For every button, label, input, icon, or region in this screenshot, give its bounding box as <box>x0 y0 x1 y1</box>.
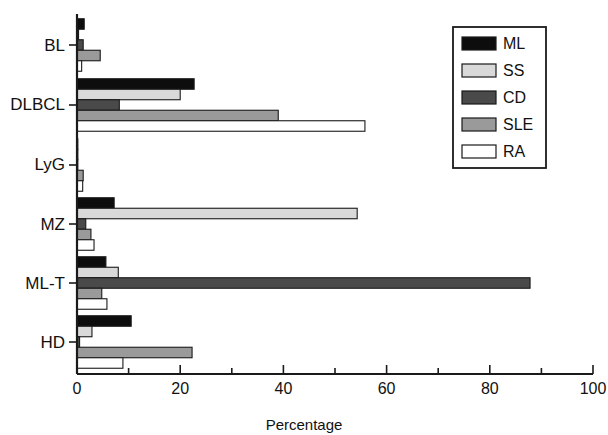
x-axis-tick-labels: 020406080100 <box>73 380 607 397</box>
bar <box>77 347 192 358</box>
bar <box>77 326 92 337</box>
bar <box>77 100 119 111</box>
bar <box>77 219 86 230</box>
bar <box>77 229 91 240</box>
legend-label: ML <box>503 35 525 52</box>
legend-swatch <box>462 91 496 104</box>
legend-label: RA <box>503 143 526 160</box>
bar <box>77 288 102 299</box>
x-axis-tick-label: 80 <box>481 380 499 397</box>
bar <box>77 110 278 121</box>
category-label: HD <box>40 333 65 352</box>
bar <box>77 121 365 132</box>
x-axis-tick-label: 40 <box>275 380 293 397</box>
bar <box>77 50 100 61</box>
y-axis-category-labels: BL DLBCL LyG MZ ML-T HD <box>10 36 65 352</box>
legend-label: CD <box>503 89 526 106</box>
category-label: ML-T <box>25 274 65 293</box>
x-axis-tick-label: 100 <box>580 380 607 397</box>
legend-swatch <box>462 37 496 50</box>
x-axis-ticks <box>77 365 593 374</box>
legend: MLSSCDSLERA <box>453 27 546 168</box>
x-axis-tick-label: 0 <box>73 380 82 397</box>
bar <box>77 278 530 289</box>
category-label: BL <box>44 36 65 55</box>
category-label: MZ <box>40 215 65 234</box>
legend-swatch <box>462 64 496 77</box>
legend-swatch <box>462 118 496 131</box>
legend-label: SLE <box>503 116 533 133</box>
bar <box>77 89 180 100</box>
bar <box>77 358 123 369</box>
bar-chart-figure: BL DLBCL LyG MZ ML-T HD 020406080100 Per… <box>0 0 608 435</box>
bar <box>77 240 94 251</box>
bar <box>77 79 194 90</box>
legend-swatch <box>462 145 496 158</box>
bar <box>77 316 131 327</box>
category-label: DLBCL <box>10 95 65 114</box>
x-axis-tick-label: 60 <box>378 380 396 397</box>
legend-label: SS <box>503 62 524 79</box>
bar <box>77 267 118 278</box>
bar <box>77 299 107 310</box>
bar <box>77 208 357 219</box>
category-label: LyG <box>34 155 65 174</box>
y-axis-ticks <box>69 45 77 342</box>
x-axis-tick-label: 20 <box>171 380 189 397</box>
x-axis-title: Percentage <box>266 416 343 433</box>
bar <box>77 198 114 209</box>
chart-canvas: BL DLBCL LyG MZ ML-T HD 020406080100 Per… <box>0 0 608 435</box>
bar <box>77 257 106 268</box>
